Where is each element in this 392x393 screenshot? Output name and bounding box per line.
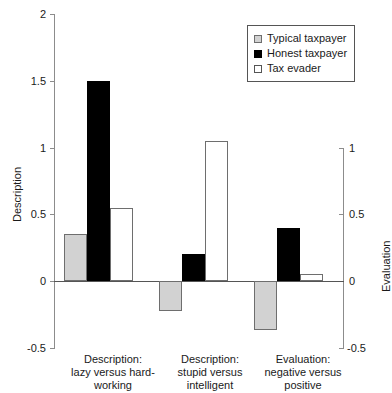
legend-label: Typical taxpayer [267, 33, 346, 44]
category-label-group1: Description: lazy versus hard- working [58, 353, 168, 392]
y-axis-title: Description [11, 167, 23, 222]
left-axis-tick-label: 1 [18, 143, 46, 154]
category-label-line: lazy versus hard- [58, 366, 168, 379]
right-axis-tick-label: 0.5 [349, 209, 383, 220]
legend-swatch-icon [254, 65, 262, 73]
category-label-line: Description: [58, 353, 168, 366]
bar-typical-taxpayer-group1 [64, 234, 87, 281]
left-axis-tick-label: 0 [18, 276, 46, 287]
category-label-line: positive [248, 379, 358, 392]
category-label-line: working [58, 379, 168, 392]
legend-item-tax-evader: Tax evader [254, 61, 347, 76]
bar-honest-taxpayer-group3 [277, 228, 300, 281]
legend-label: Honest taxpayer [267, 48, 347, 59]
bar-tax-evader-group1 [110, 208, 133, 281]
y2-axis-title: Evaluation [380, 241, 392, 292]
bar-honest-taxpayer-group2 [182, 254, 205, 281]
legend-swatch-icon [254, 50, 262, 58]
left-axis-tick-label: 2 [18, 9, 46, 20]
category-label-group3: Evaluation: negative versus positive [248, 353, 358, 392]
bar-tax-evader-group3 [300, 274, 323, 281]
bar-typical-taxpayer-group2 [159, 281, 182, 311]
left-axis-tick-label: 1.5 [10, 76, 46, 87]
left-axis-tick-label: -0.5 [6, 343, 46, 354]
legend: Typical taxpayer Honest taxpayer Tax eva… [247, 25, 355, 82]
right-axis-tick-label: 1 [349, 143, 383, 154]
legend-swatch-icon [254, 35, 262, 43]
bar-honest-taxpayer-group1 [87, 81, 110, 281]
category-label-line: negative versus [248, 366, 358, 379]
bar-tax-evader-group2 [205, 141, 228, 281]
right-axis-tick-label: 0 [349, 276, 383, 287]
legend-label: Tax evader [267, 63, 321, 74]
legend-item-typical-taxpayer: Typical taxpayer [254, 31, 347, 46]
category-label-line: Evaluation: [248, 353, 358, 366]
bar-typical-taxpayer-group3 [254, 281, 277, 330]
legend-item-honest-taxpayer: Honest taxpayer [254, 46, 347, 61]
right-axis-line [343, 148, 344, 348]
